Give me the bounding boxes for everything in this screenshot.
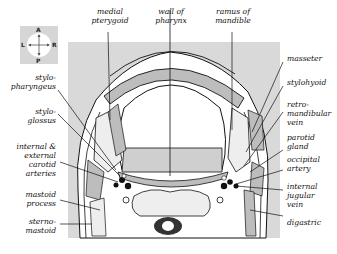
label-parotid-gland: parotid gland [287, 133, 315, 151]
label-carotid-arteries: internal & external carotid arteries [0, 142, 56, 178]
label-mastoid-process: mastoid process [0, 190, 56, 208]
label-masseter: masseter [287, 54, 322, 63]
label-stylopharyngeus: stylo- pharyngeus [0, 73, 56, 91]
label-ramus-of-mandible: ramus of mandible [212, 7, 254, 25]
label-occipital-artery: occipital artery [287, 155, 320, 173]
neck-cross-section-drawing [0, 0, 337, 254]
label-stylohyoid: stylohyoid [287, 78, 326, 87]
label-wall-of-pharynx: wall of pharynx [152, 7, 190, 25]
label-retromandibular-vein: retro- mandibular vein [287, 100, 331, 127]
label-sternomastoid: sterno- mastoid [0, 217, 56, 235]
label-styloglossus: stylo- glossus [0, 107, 56, 125]
label-medial-pterygoid: medial pterygoid [90, 7, 130, 25]
label-digastric: digastric [287, 218, 321, 227]
label-internal-jugular-vein: internal jugular vein [287, 182, 317, 209]
